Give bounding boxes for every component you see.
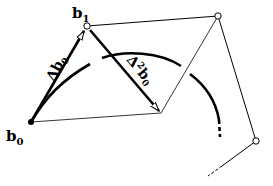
label-b0: b0 <box>6 127 24 147</box>
label-b1: b1 <box>72 4 89 24</box>
point-b0 <box>28 119 34 125</box>
point-b3 <box>253 138 259 144</box>
curve-arc-part3 <box>190 74 219 120</box>
edge-b3-continue <box>222 141 256 166</box>
edge-mid-b2 <box>161 16 218 113</box>
point-b2 <box>215 13 221 19</box>
edge-b3-continue-dashed <box>208 166 222 176</box>
curve-arc-dashed <box>219 120 220 137</box>
svg-text:Δ2b0: Δ2b0 <box>122 52 157 89</box>
bezier-diagram: b1 b0 Δb0 Δ2b0 <box>0 0 273 186</box>
edge-b1-b2 <box>87 16 218 26</box>
edge-b0-mid <box>31 113 161 122</box>
edge-b2-b3 <box>218 16 256 141</box>
label-delta2-b0: Δ2b0 <box>122 52 157 89</box>
